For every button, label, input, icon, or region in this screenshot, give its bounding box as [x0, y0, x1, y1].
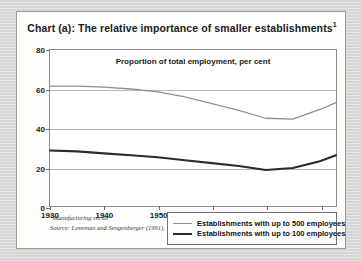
series-lines: [50, 50, 336, 206]
x-tick-mark-1940: [104, 206, 105, 210]
legend-swatch-icon: [173, 223, 192, 224]
series-line-500-employees: [50, 86, 336, 119]
footnote-line-1: 1Manufacturing sector: [50, 212, 180, 223]
chart-panel: Chart (a): The relative importance of sm…: [16, 11, 346, 249]
footnote: 1Manufacturing sector Source: Loveman an…: [50, 212, 180, 232]
y-tick-label-20: 20: [36, 164, 45, 173]
x-tick-mark-1970: [267, 206, 268, 210]
x-tick-mark-1930: [50, 206, 51, 210]
chart-title: Chart (a): The relative importance of sm…: [17, 21, 347, 34]
chart-title-footnote-marker: 1: [333, 21, 337, 28]
chart-title-text: Chart (a): The relative importance of sm…: [27, 22, 332, 34]
legend-box: Establishments with up to 500 employeesE…: [167, 212, 337, 245]
legend-label: Establishments with up to 500 employees: [197, 219, 345, 228]
footnote-line-2: Source: Loveman and Sengenberger (1991).: [50, 223, 180, 232]
legend-swatch-icon: [173, 233, 192, 235]
footnote-text-1: Manufacturing sector: [53, 214, 110, 221]
plot-area: Proportion of total employment, per cent…: [49, 49, 337, 207]
y-tick-label-80: 80: [36, 46, 45, 55]
x-tick-mark-1960: [213, 206, 214, 210]
legend-item-500-employees: Establishments with up to 500 employees: [173, 219, 331, 228]
figure-container: Chart (a): The relative importance of sm…: [0, 0, 362, 261]
x-tick-mark-1980: [322, 206, 323, 210]
y-tick-label-40: 40: [36, 125, 45, 134]
series-line-100-employees: [50, 150, 336, 170]
x-tick-mark-1950: [159, 206, 160, 210]
legend-label: Establishments with up to 100 employees: [197, 229, 345, 238]
y-tick-label-60: 60: [36, 85, 45, 94]
legend-item-100-employees: Establishments with up to 100 employees: [173, 229, 331, 238]
